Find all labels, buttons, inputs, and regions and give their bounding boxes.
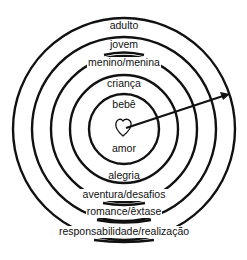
label-bebe: bebê xyxy=(112,98,136,110)
ring-2 xyxy=(70,75,178,183)
label-amor: amor xyxy=(112,142,136,154)
concentric-life-stages-diagram: bebê criança menino/menina jovem adulto … xyxy=(0,0,247,260)
menino-arc xyxy=(104,53,144,56)
label-adulto: adulto xyxy=(110,19,139,31)
label-aventura-desafios: aventura/desafios xyxy=(83,188,166,200)
label-alegria: alegria xyxy=(108,169,140,181)
label-romance-extase: romance/êxtase xyxy=(87,205,162,217)
label-crianca: criança xyxy=(107,77,141,89)
label-responsabilidade-realizacao: responsabilidade/realização xyxy=(59,225,189,237)
arrow-icon xyxy=(126,96,223,128)
label-menino-menina: menino/menina xyxy=(88,56,160,68)
label-jovem: jovem xyxy=(109,38,138,50)
